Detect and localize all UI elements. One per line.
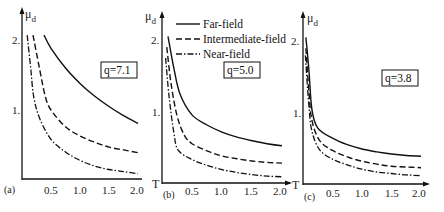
y-tick-1: 1.	[152, 106, 161, 118]
curve-intermediate-field	[33, 35, 138, 153]
q-label: q=5.0	[227, 64, 254, 77]
legend-entry-intermediate-field: Intermediate-field	[176, 33, 286, 45]
q-label: q=3.8	[385, 72, 412, 85]
curves	[305, 37, 421, 175]
q-label: q=7.1	[104, 64, 131, 77]
y-tick-2: 2.	[151, 34, 160, 46]
y-axis-label: μd	[25, 7, 36, 24]
legend-entry-far-field: Far-field	[176, 18, 243, 30]
y-tick-1: 1.	[293, 107, 302, 119]
x-axis-label: T	[152, 177, 160, 191]
x-tick-0.5: 0.5	[44, 184, 58, 196]
x-tick-1.0: 1.0	[214, 185, 228, 197]
panel-b: μd 2. 1. T 0.5 1.0 1.5 2.0 (b) q=5.0 Far…	[145, 9, 292, 201]
y-axis-label: μd	[307, 11, 318, 28]
x-tick-0.5: 0.5	[326, 187, 340, 199]
curve-far-field	[44, 35, 138, 123]
y-axis-arrow-icon	[160, 11, 165, 18]
x-tick-1.5: 1.5	[385, 187, 399, 199]
legend-entry-near-field: Near-field	[176, 48, 250, 60]
x-tick-2.0: 2.0	[412, 187, 426, 199]
legend: Far-field Intermediate-field Near-field	[176, 18, 286, 60]
x-tick-2.0: 2.0	[273, 185, 287, 197]
curve-near-field	[27, 35, 138, 174]
figure: μd 2. 1. 0.5 1.0 1.5 2.0 (a) q=7.1 μd 2.…	[0, 0, 444, 212]
x-tick-1.0: 1.0	[73, 184, 87, 196]
panel-c: μd 2. 1. T 0.5 1.0 1.5 2.0 (c) q=3.8	[291, 11, 430, 203]
y-axis-arrow-icon	[20, 7, 25, 14]
legend-label: Near-field	[203, 48, 250, 60]
y-axis-arrow-icon	[301, 11, 306, 18]
x-tick-1.5: 1.5	[102, 184, 116, 196]
curve-far-field	[306, 37, 421, 156]
panel-label: (a)	[4, 184, 15, 196]
x-tick-1.0: 1.0	[355, 187, 369, 199]
curves	[27, 35, 138, 174]
y-tick-2: 2.	[291, 35, 300, 47]
y-axis-label: μd	[145, 9, 156, 26]
x-axis-label: T	[292, 178, 300, 192]
y-tick-1: 1.	[12, 104, 21, 116]
x-tick-1.5: 1.5	[244, 185, 258, 197]
legend-label: Far-field	[203, 18, 243, 30]
panel-label: (c)	[304, 191, 315, 203]
panel-label: (b)	[163, 189, 175, 201]
x-axis-arrow-icon	[423, 182, 430, 187]
x-tick-2.0: 2.0	[130, 184, 144, 196]
y-tick-2: 2.	[12, 34, 21, 46]
panel-a: μd 2. 1. 0.5 1.0 1.5 2.0 (a) q=7.1	[4, 7, 144, 196]
legend-label: Intermediate-field	[203, 33, 286, 45]
x-tick-0.5: 0.5	[185, 185, 199, 197]
